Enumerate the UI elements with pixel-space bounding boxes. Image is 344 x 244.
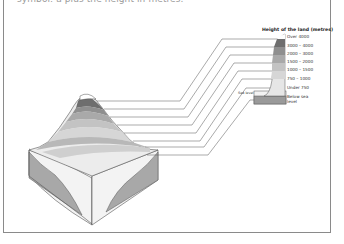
legend-label: 1000 – 1500 xyxy=(287,68,313,73)
legend-label: 3000 – 4000 xyxy=(287,44,313,49)
legend-title: Height of the land (metres) xyxy=(262,27,333,32)
legend-label: Over 4000 xyxy=(287,35,309,40)
legend-label: 750 – 1000 xyxy=(287,77,310,82)
legend-label: Below sea level xyxy=(287,95,311,104)
terrain-block xyxy=(29,94,158,225)
legend-label: 2000 – 3000 xyxy=(287,52,313,57)
legend-label: Under 750 xyxy=(287,86,309,91)
legend-label: 1500 – 2000 xyxy=(287,60,313,65)
legend-profile xyxy=(254,34,286,104)
sea-level-label: Sea level xyxy=(238,91,253,95)
